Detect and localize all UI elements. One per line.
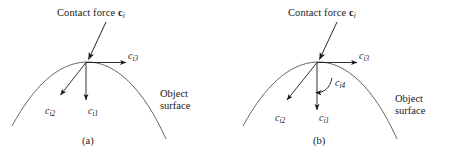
vector-ci1-label: ci1: [88, 105, 98, 118]
panel-a-caption: (a): [82, 135, 94, 147]
vector-ci2-label: ci2: [45, 105, 55, 118]
vector-ci4-subscript: i4: [339, 81, 345, 90]
vector-ci3-subscript: i3: [132, 54, 138, 63]
panel-b-caption: (b): [313, 135, 325, 147]
object-surface-curve: [12, 62, 166, 139]
contact-force-title: Contact force ci: [288, 7, 356, 20]
contact-force-title-subscript: i: [354, 11, 356, 20]
contact-force-figure: Contact force ci ci3 ci1 ci2 Object surf…: [0, 0, 463, 159]
vector-ci3-subscript: i3: [363, 54, 369, 63]
vector-ci1-label: ci1: [319, 112, 329, 125]
object-surface-label: Object surface: [395, 93, 425, 117]
contact-force-title-subscript: i: [123, 11, 125, 20]
contact-force-arrow: [320, 22, 338, 60]
panel-a: Contact force ci ci3 ci1 ci2 Object surf…: [0, 0, 232, 159]
panel-b-artwork: [231, 0, 463, 159]
vector-ci1-subscript: i1: [323, 116, 329, 125]
contact-force-title-prefix: Contact force: [57, 7, 118, 18]
panel-b: Contact force ci ci3 ci4 ci1 ci2 Object …: [231, 0, 463, 159]
vector-ci3-label: ci3: [128, 50, 138, 63]
vector-ci2-arrow: [287, 63, 317, 101]
object-surface-label: Object surface: [160, 88, 190, 112]
vector-ci1-subscript: i1: [92, 109, 98, 118]
object-surface-curve: [243, 62, 397, 139]
vector-ci3-label: ci3: [359, 50, 369, 63]
object-surface-label-line1: Object: [160, 88, 190, 100]
contact-force-arrow: [89, 22, 107, 60]
object-surface-label-line2: surface: [395, 105, 425, 117]
vector-ci2-subscript: i2: [279, 116, 285, 125]
vector-ci2-label: ci2: [275, 112, 285, 125]
vector-ci4-curved-arrow: [316, 78, 332, 93]
object-surface-label-line1: Object: [395, 93, 425, 105]
vector-ci2-subscript: i2: [49, 109, 55, 118]
object-surface-label-line2: surface: [160, 100, 190, 112]
vector-ci4-label: ci4: [335, 77, 345, 90]
panel-a-artwork: [0, 0, 232, 159]
contact-force-title: Contact force ci: [57, 7, 125, 20]
contact-force-title-prefix: Contact force: [288, 7, 349, 18]
